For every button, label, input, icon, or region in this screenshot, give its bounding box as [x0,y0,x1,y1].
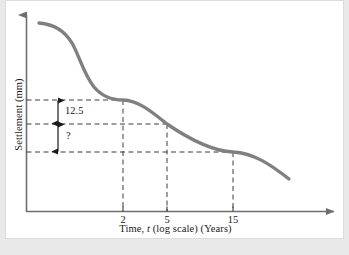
y-axis-title: Settlement (mm) [13,55,24,175]
annotation-label-upper-gap: 12.5 [65,105,83,116]
x-axis-title: Time, t (log scale) (Years) [6,223,344,234]
annotation-label-lower-gap: ? [66,130,71,141]
settlement-curve [39,23,289,179]
chart-panel: 2 5 15 12.5 ? Time, t (log scale) (Years… [5,0,344,239]
x-axis-title-pre: Time, [119,223,147,234]
x-axis-title-post: (log scale) (Years) [150,223,232,234]
settlement-vs-time-chart [6,1,344,239]
figure-root: 2 5 15 12.5 ? Time, t (log scale) (Years… [0,0,349,255]
